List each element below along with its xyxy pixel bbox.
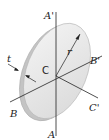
label-axis-c-right: C' [89, 102, 99, 113]
label-axis-b-right: B' [89, 55, 100, 66]
label-center: C [42, 65, 49, 76]
label-axis-b-left: B [9, 108, 17, 119]
disk-diagram: A' A B B' C' C r t [0, 0, 109, 140]
label-axis-a-top: A' [43, 10, 54, 21]
label-axis-a-bottom: A [47, 129, 55, 140]
label-thickness: t [7, 53, 12, 64]
